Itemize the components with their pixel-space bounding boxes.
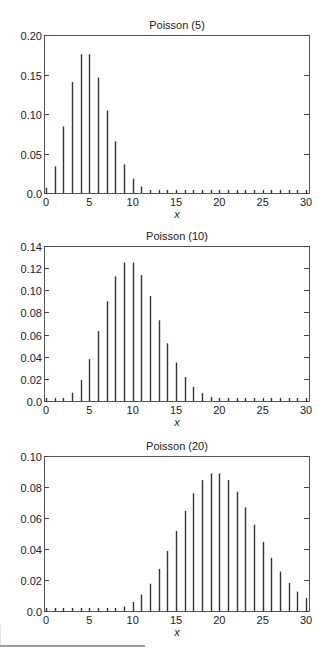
chart-svg: Poisson (5)0.00.050.100.150.200510152025…: [0, 0, 330, 220]
x-axis-label: x: [173, 626, 180, 638]
x-tick-label: 0: [43, 614, 49, 626]
y-tick-label: 0.04: [21, 352, 42, 364]
chart-title: Poisson (10): [146, 230, 208, 242]
y-tick-label: 0.0: [27, 396, 42, 408]
x-tick-label: 10: [127, 196, 139, 208]
x-tick-label: 25: [257, 196, 269, 208]
x-tick-label: 15: [170, 614, 182, 626]
y-tick-label: 0.08: [21, 307, 42, 319]
x-tick-label: 20: [213, 404, 225, 416]
footnote-rule: [0, 645, 145, 647]
y-tick-label: 0.10: [21, 109, 42, 121]
y-tick-label: 0.02: [21, 374, 42, 386]
x-tick-label: 20: [213, 614, 225, 626]
chart-poisson-20: Poisson (20)0.00.020.040.060.080.1005101…: [0, 430, 330, 649]
y-tick-label: 0.15: [21, 70, 42, 82]
y-tick-label: 0.10: [21, 451, 42, 463]
x-axis-label: x: [173, 208, 180, 220]
chart-title: Poisson (5): [149, 19, 205, 31]
x-tick-label: 0: [43, 404, 49, 416]
y-tick-label: 0.02: [21, 575, 42, 587]
x-tick-label: 25: [257, 404, 269, 416]
x-tick-label: 30: [300, 614, 312, 626]
chart-title: Poisson (20): [146, 440, 208, 452]
chart-poisson-10: Poisson (10)0.00.020.040.060.080.100.120…: [0, 220, 330, 435]
x-tick-label: 20: [213, 196, 225, 208]
x-tick-label: 15: [170, 404, 182, 416]
x-tick-label: 5: [86, 196, 92, 208]
x-axis-label: x: [173, 416, 180, 428]
y-tick-label: 0.04: [21, 544, 42, 556]
x-tick-label: 5: [86, 614, 92, 626]
x-tick-label: 10: [127, 614, 139, 626]
y-tick-label: 0.14: [21, 241, 42, 253]
y-tick-label: 0.08: [21, 482, 42, 494]
x-tick-label: 25: [257, 614, 269, 626]
y-tick-label: 0.06: [21, 513, 42, 525]
chart-svg: Poisson (10)0.00.020.040.060.080.100.120…: [0, 220, 330, 435]
page-edge-line: [0, 625, 1, 647]
x-tick-label: 5: [86, 404, 92, 416]
y-tick-label: 0.06: [21, 330, 42, 342]
chart-svg: Poisson (20)0.00.020.040.060.080.1005101…: [0, 430, 330, 649]
y-tick-label: 0.0: [27, 188, 42, 200]
y-tick-label: 0.20: [21, 30, 42, 42]
x-tick-label: 0: [43, 196, 49, 208]
y-tick-label: 0.12: [21, 263, 42, 275]
y-tick-label: 0.10: [21, 285, 42, 297]
y-tick-label: 0.05: [21, 149, 42, 161]
x-tick-label: 10: [127, 404, 139, 416]
chart-poisson-5: Poisson (5)0.00.050.100.150.200510152025…: [0, 0, 330, 220]
x-tick-label: 30: [300, 196, 312, 208]
y-tick-label: 0.0: [27, 606, 42, 618]
x-tick-label: 15: [170, 196, 182, 208]
plot-frame: [45, 36, 310, 194]
x-tick-label: 30: [300, 404, 312, 416]
